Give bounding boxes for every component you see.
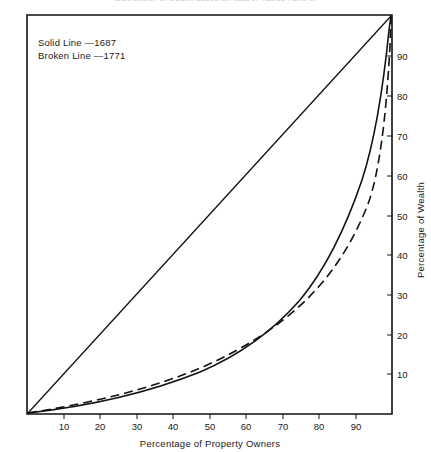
y-tick-label-20: 20 [397,330,408,341]
y-tick-label-50: 50 [397,211,408,222]
y-tick-label-40: 40 [397,250,408,261]
x-tick-label-80: 80 [314,421,325,432]
lorenz-curve-chart: 10 20 30 40 50 60 70 80 90 Percentage of… [0,0,431,452]
x-tick-label-70: 70 [278,421,289,432]
x-axis: 10 20 30 40 50 60 70 80 90 Percentage of… [59,414,362,449]
x-tick-label-40: 40 [168,421,179,432]
y-tick-label-60: 60 [397,171,408,182]
legend-item-solid-1687: Solid Line —1687 [38,36,125,49]
x-tick-label-90: 90 [351,421,362,432]
y-tick-label-70: 70 [397,131,408,142]
x-tick-label-50: 50 [205,421,216,432]
y-tick-label-80: 80 [397,91,408,102]
legend-item-broken-1771: Broken Line —1771 [38,49,125,62]
x-tick-label-10: 10 [59,421,70,432]
x-axis-title: Percentage of Property Owners [140,438,280,449]
legend: Solid Line —1687 Broken Line —1771 [38,36,125,62]
equality-diagonal-line [28,16,391,413]
y-tick-label-90: 90 [397,51,408,62]
y-axis-title: Percentage of Wealth [415,182,426,278]
x-tick-label-60: 60 [241,421,252,432]
y-tick-label-30: 30 [397,290,408,301]
x-tick-label-20: 20 [95,421,106,432]
y-axis: 90 80 70 60 50 40 30 20 10 Percentage of… [387,51,426,380]
y-tick-label-10: 10 [397,369,408,380]
x-tick-label-30: 30 [132,421,143,432]
